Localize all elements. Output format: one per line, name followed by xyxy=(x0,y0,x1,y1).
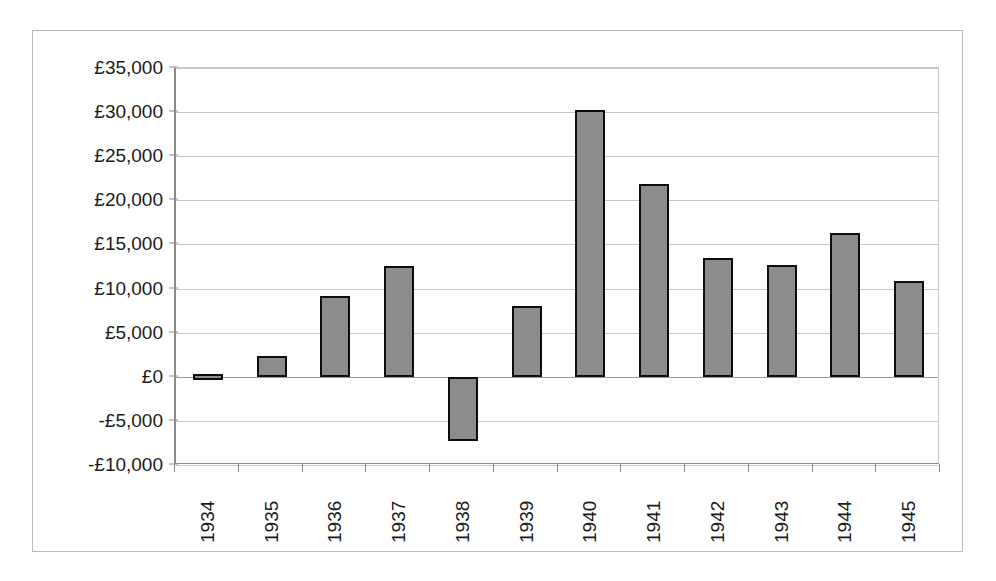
gridline xyxy=(176,289,938,290)
x-axis-tick-label: 1939 xyxy=(493,471,557,551)
bar-1936 xyxy=(320,296,350,376)
gridline xyxy=(176,244,938,245)
x-axis-tick xyxy=(939,464,940,472)
gridline xyxy=(176,333,938,334)
gridline xyxy=(176,112,938,113)
x-axis-tick-label-text: 1937 xyxy=(388,501,410,543)
x-axis-tick-label: 1940 xyxy=(557,471,621,551)
y-axis-tick-group xyxy=(33,67,183,464)
gridline xyxy=(176,377,938,378)
x-axis-tick-label-text: 1942 xyxy=(707,501,729,543)
bar-1935 xyxy=(257,356,287,376)
x-axis-tick-label: 1942 xyxy=(684,471,748,551)
x-axis-tick-label: 1937 xyxy=(365,471,429,551)
x-axis-tick-label-text: 1944 xyxy=(834,501,856,543)
gridline xyxy=(176,156,938,157)
bar-1943 xyxy=(767,265,797,377)
bar-1938 xyxy=(448,377,478,441)
x-axis-tick-label-text: 1945 xyxy=(898,501,920,543)
x-axis-tick-label-text: 1940 xyxy=(579,501,601,543)
x-axis-tick-label-text: 1936 xyxy=(324,501,346,543)
chart-frame: £35,000£30,000£25,000£20,000£15,000£10,0… xyxy=(32,30,963,552)
x-axis-tick-label: 1934 xyxy=(174,471,238,551)
x-axis-tick-label: 1944 xyxy=(812,471,876,551)
bar-1944 xyxy=(830,233,860,377)
bar-1941 xyxy=(639,184,669,376)
x-axis-tick-label: 1941 xyxy=(620,471,684,551)
x-axis-tick-label: 1945 xyxy=(875,471,939,551)
x-axis-tick-label-text: 1941 xyxy=(643,501,665,543)
plot-area xyxy=(174,67,939,464)
x-axis-tick-label-text: 1943 xyxy=(771,501,793,543)
x-axis-label-group: 1934193519361937193819391940194119421943… xyxy=(174,471,939,551)
bar-1939 xyxy=(512,306,542,377)
bar-1937 xyxy=(384,266,414,377)
x-axis-tick-label-text: 1935 xyxy=(261,501,283,543)
x-axis-tick-label: 1938 xyxy=(429,471,493,551)
x-axis-tick-label: 1936 xyxy=(302,471,366,551)
bar-1945 xyxy=(894,281,924,376)
gridline xyxy=(176,68,938,69)
x-axis-tick-label: 1943 xyxy=(748,471,812,551)
x-axis-tick-label-text: 1939 xyxy=(516,501,538,543)
x-axis-tick-label-text: 1934 xyxy=(197,501,219,543)
bar-1934 xyxy=(193,374,223,380)
x-axis-tick-label: 1935 xyxy=(238,471,302,551)
x-axis-tick-label-text: 1938 xyxy=(452,501,474,543)
gridline xyxy=(176,421,938,422)
bar-1940 xyxy=(575,110,605,376)
bar-1942 xyxy=(703,258,733,377)
gridline xyxy=(176,200,938,201)
